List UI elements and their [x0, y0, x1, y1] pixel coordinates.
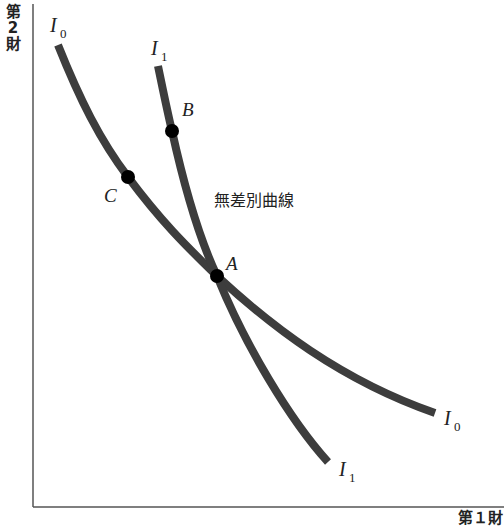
point-c-marker: [121, 170, 135, 184]
indifference-curve-i0: [58, 45, 435, 413]
svg-text:I: I: [150, 37, 159, 59]
point-b-marker: [165, 124, 179, 138]
curve-label-i0-top: I 0: [49, 14, 67, 41]
point-b-label: B: [182, 99, 194, 120]
svg-text:I: I: [49, 14, 58, 36]
svg-text:0: 0: [60, 26, 67, 41]
indifference-curve-annotation: 無差別曲線: [214, 191, 294, 210]
svg-text:I: I: [443, 407, 452, 429]
svg-text:1: 1: [161, 49, 168, 64]
svg-text:0: 0: [454, 419, 461, 434]
curve-label-i1-bottom: I 1: [338, 458, 356, 485]
svg-text:I: I: [338, 458, 347, 480]
curve-label-i0-bottom: I 0: [443, 407, 461, 434]
curve-label-i1-top: I 1: [150, 37, 168, 64]
point-c-label: C: [104, 185, 117, 206]
svg-text:1: 1: [349, 470, 356, 485]
indifference-curve-i1: [158, 66, 328, 462]
point-a-marker: [210, 269, 224, 283]
point-a-label: A: [224, 253, 238, 274]
